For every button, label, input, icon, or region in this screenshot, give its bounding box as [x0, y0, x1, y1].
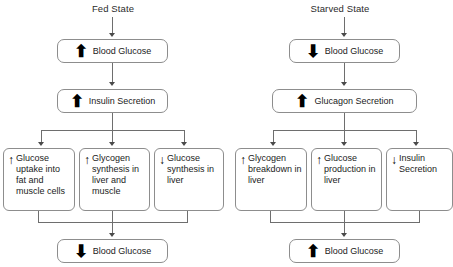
node-fed-branch-2[interactable]: ↑ Glycogen synthesis in liver and muscle [79, 148, 150, 211]
node-label: Blood Glucose [93, 246, 152, 257]
merge-bus-horizontal [38, 222, 188, 223]
arrowhead-heading-to-step1 [341, 33, 347, 37]
arrowhead-heading-to-step1 [109, 33, 115, 37]
arrowhead-branch-1 [38, 142, 44, 146]
node-label: Insulin Secretion [399, 153, 449, 175]
node-label: Blood Glucose [325, 46, 384, 57]
arrowhead-branch-2 [341, 142, 347, 146]
connector-step2-to-bus [344, 113, 345, 130]
arrowhead-step1-to-step2 [341, 82, 347, 86]
node-label: Glucose production in liver [324, 153, 378, 186]
arrowhead-step1-to-step2 [109, 82, 115, 86]
arrowhead-branch-1 [270, 142, 276, 146]
merge-stub-3 [419, 211, 420, 222]
arrow-up-icon: ↑ [8, 154, 14, 166]
merge-stub-2 [112, 211, 113, 222]
merge-stub-1 [270, 211, 271, 222]
merge-bus-horizontal [270, 222, 420, 223]
node-starved-branch-3[interactable]: ↓ Insulin Secretion [386, 148, 453, 211]
arrow-down-icon: ↓ [391, 154, 397, 166]
flow-column-fed: Fed State ⬆ Blood Glucose ⬆ Insulin Secr… [0, 0, 226, 267]
node-starved-branch-2[interactable]: ↑ Glucose production in liver [311, 148, 382, 211]
node-label: Glycogen breakdown in liver [248, 153, 303, 186]
node-fed-result-blood-glucose[interactable]: ⬇ Blood Glucose [57, 239, 168, 263]
arrowhead-branch-2 [109, 142, 115, 146]
connector-step1-to-step2 [344, 63, 345, 83]
column-heading-fed: Fed State [0, 3, 226, 15]
node-starved-blood-glucose-low[interactable]: ⬇ Blood Glucose [289, 39, 400, 63]
flow-column-starved: Starved State ⬇ Blood Glucose ⬆ Glucagon… [227, 0, 453, 267]
merge-stub-1 [38, 211, 39, 222]
node-fed-branch-3[interactable]: ↓ Glucose synthesis in liver [154, 148, 224, 211]
arrow-down-icon: ↓ [159, 154, 165, 166]
node-label: Glycogen synthesis in liver and muscle [92, 153, 146, 197]
arrow-up-icon: ⬆ [306, 243, 320, 260]
arrow-down-icon: ⬇ [74, 243, 88, 260]
node-starved-branch-1[interactable]: ↑ Glycogen breakdown in liver [235, 148, 307, 211]
node-label: Blood Glucose [325, 246, 384, 257]
node-label: Blood Glucose [93, 46, 152, 57]
node-fed-branch-1[interactable]: ↑ Glucose uptake into fat and muscle cel… [3, 148, 75, 211]
arrowhead-branch-3 [181, 142, 187, 146]
node-starved-result-blood-glucose[interactable]: ⬆ Blood Glucose [289, 239, 400, 263]
arrow-up-icon: ⬆ [295, 93, 309, 110]
flowchart-diagram: Fed State ⬆ Blood Glucose ⬆ Insulin Secr… [0, 0, 453, 267]
arrowhead-branch-3 [413, 142, 419, 146]
node-label: Glucose uptake into fat and muscle cells [16, 153, 71, 197]
arrowhead-to-result [341, 233, 347, 237]
node-fed-blood-glucose-high[interactable]: ⬆ Blood Glucose [57, 39, 168, 63]
arrow-up-icon: ⬆ [70, 93, 84, 110]
connector-step2-to-bus [112, 113, 113, 130]
merge-stub-2 [344, 211, 345, 222]
arrow-up-icon: ⬆ [74, 43, 88, 60]
merge-stub-3 [187, 211, 188, 222]
arrowhead-to-result [109, 233, 115, 237]
connector-heading-to-step1 [344, 17, 345, 34]
connector-heading-to-step1 [112, 17, 113, 34]
arrow-down-icon: ⬇ [306, 43, 320, 60]
node-label: Glucagon Secretion [314, 96, 393, 107]
node-label: Insulin Secretion [89, 96, 156, 107]
connector-step1-to-step2 [112, 63, 113, 83]
arrow-up-icon: ↑ [84, 154, 90, 166]
arrow-up-icon: ↑ [316, 154, 322, 166]
node-fed-insulin-secretion[interactable]: ⬆ Insulin Secretion [57, 89, 168, 113]
node-label: Glucose synthesis in liver [167, 153, 220, 186]
column-heading-starved: Starved State [227, 3, 453, 15]
arrow-up-icon: ↑ [240, 154, 246, 166]
node-starved-glucagon-secretion[interactable]: ⬆ Glucagon Secretion [272, 89, 417, 113]
